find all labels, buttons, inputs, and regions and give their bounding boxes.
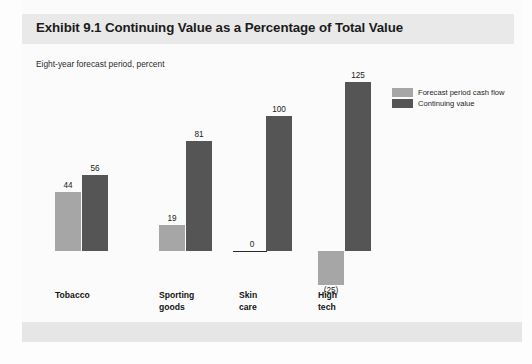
value-label-skin-care-forecast: 0 [239,240,265,249]
value-label-skin-care-continuing: 100 [266,105,292,114]
bar-skin-care-continuing [266,116,292,251]
value-label-tobacco-forecast: 44 [55,181,81,190]
bar-tobacco-forecast [55,192,81,251]
category-label-line: High [318,289,337,301]
category-label-line: tech [318,301,337,313]
value-label-sporting-goods-forecast: 19 [159,214,185,223]
category-label-sporting-goods: Sportinggoods [159,289,194,313]
category-label-high-tech: Hightech [318,289,337,313]
category-label-line: care [239,301,257,313]
value-label-tobacco-continuing: 56 [82,164,108,173]
bar-chart-plot: 4456Tobacco1981Sportinggoods0100Skincare… [0,0,532,364]
category-label-line: Sporting [159,289,194,301]
bar-sporting-goods-forecast [159,225,185,251]
bar-sporting-goods-continuing [186,141,212,251]
value-label-sporting-goods-continuing: 81 [186,130,212,139]
category-label-skin-care: Skincare [239,289,257,313]
category-label-line: Skin [239,289,257,301]
category-label-line: goods [159,301,194,313]
value-label-high-tech-continuing: 125 [345,71,371,80]
bar-high-tech-forecast [318,251,344,285]
category-label-line: Tobacco [55,289,90,301]
bar-tobacco-continuing [82,175,108,251]
category-label-tobacco: Tobacco [55,289,90,301]
bar-high-tech-continuing [345,82,371,251]
zero-baseline [233,251,267,252]
exhibit-page: Exhibit 9.1 Continuing Value as a Percen… [0,0,532,364]
